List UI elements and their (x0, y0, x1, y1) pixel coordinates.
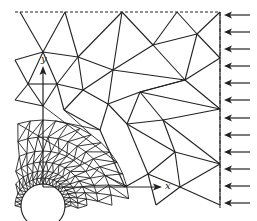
mesh-edge (48, 163, 53, 171)
mesh-edge (83, 90, 108, 104)
mesh-edge (59, 165, 65, 168)
load-arrow-icon (224, 132, 250, 139)
load-arrow-icon (224, 166, 250, 173)
mesh-edge (15, 206, 21, 208)
mesh-edge (65, 206, 71, 208)
mesh-edge (59, 153, 67, 156)
mesh-edge (79, 178, 90, 181)
mesh-edge (46, 179, 49, 185)
mesh-edge (38, 162, 40, 171)
mesh-edge (43, 106, 117, 162)
mesh-edge (53, 163, 59, 165)
mesh-edge (100, 104, 108, 130)
mesh-edge (77, 146, 85, 152)
x-axis-label: x (165, 181, 171, 191)
mesh-edge (43, 52, 78, 57)
mesh-edge (70, 171, 75, 175)
mesh-edge (86, 152, 94, 159)
mesh-edge (65, 204, 71, 206)
load-arrow-icon (224, 97, 250, 104)
mesh-edge (180, 164, 220, 187)
load-arrow-icon (224, 29, 250, 36)
mesh-edge (91, 135, 101, 143)
load-arrow-icon (224, 115, 250, 122)
mesh-edge (111, 195, 112, 205)
mesh-edge (15, 52, 43, 60)
mesh-edge (64, 90, 83, 110)
mesh-edge (38, 137, 43, 151)
mesh-edge (96, 193, 111, 195)
mesh-edge (46, 162, 52, 163)
mesh-edge (113, 12, 122, 70)
mesh-edge (53, 163, 54, 172)
mesh-edge (48, 171, 53, 172)
mesh-edge (83, 70, 113, 90)
mesh-edge (57, 57, 78, 84)
mesh-edge (15, 60, 28, 84)
mesh-edge (37, 179, 40, 185)
mesh-edge (65, 12, 78, 57)
mesh-edge (86, 199, 87, 206)
mesh-edge (127, 92, 140, 124)
mesh-edge (177, 12, 197, 34)
mesh-edge (125, 174, 148, 187)
load-arrow-icon (224, 12, 250, 19)
mesh-edge (23, 177, 24, 187)
load-arrow-icon (224, 46, 250, 53)
mesh-edge (20, 12, 43, 52)
mesh-edge (57, 84, 83, 90)
mesh-edge (108, 92, 140, 104)
mesh-edge (67, 180, 71, 184)
mesh-edge (40, 178, 41, 184)
load-arrow-icon (224, 183, 250, 190)
mesh-edge (197, 34, 220, 58)
mesh-edge (127, 124, 148, 174)
mesh-edge (45, 178, 46, 184)
mesh-edge (140, 80, 185, 92)
circular-hole (21, 184, 65, 221)
mesh-edge (78, 57, 83, 90)
mesh-edge (19, 156, 21, 167)
mesh-edge (98, 195, 111, 201)
mesh-edge (63, 177, 67, 180)
mesh-edge (175, 152, 220, 164)
mesh-edge (16, 180, 20, 184)
mesh-edge (113, 45, 153, 70)
load-arrows (224, 12, 250, 207)
mesh-edge (75, 176, 90, 178)
mesh-edge (35, 151, 43, 152)
load-arrow-icon (224, 149, 250, 156)
load-arrow-icon (224, 63, 250, 70)
mesh-edge (53, 173, 58, 175)
mesh-edge (15, 201, 21, 202)
mesh-edge (80, 165, 86, 171)
mesh-edge (64, 201, 70, 202)
mesh-edge (78, 205, 87, 208)
mesh-edge (77, 198, 86, 199)
load-arrow-icon (224, 200, 250, 207)
mesh-edge (28, 84, 43, 106)
mesh-edge (77, 193, 85, 198)
mesh-edge (98, 201, 112, 205)
y-axis-label: y (41, 54, 47, 64)
mesh-edge (148, 174, 180, 187)
mesh-edge (15, 100, 43, 106)
mesh-edge (68, 142, 77, 146)
mesh-edge (78, 57, 113, 70)
mesh-edge (78, 199, 87, 203)
fem-mesh-diagram (0, 0, 257, 221)
mesh-edge (58, 139, 59, 154)
mesh-edge (67, 156, 74, 160)
mesh-edge (175, 152, 180, 187)
mesh-edge (30, 120, 43, 121)
mesh-edge (58, 139, 68, 142)
mesh-edge (78, 12, 122, 57)
mesh-edge (163, 109, 220, 120)
mesh-edge (127, 120, 163, 124)
mesh-edge (74, 160, 80, 165)
mesh-edge (127, 186, 129, 199)
mesh-edge (48, 137, 58, 139)
mesh-edge (15, 204, 21, 206)
mesh-edge (35, 137, 38, 151)
mesh-edge (15, 84, 28, 100)
